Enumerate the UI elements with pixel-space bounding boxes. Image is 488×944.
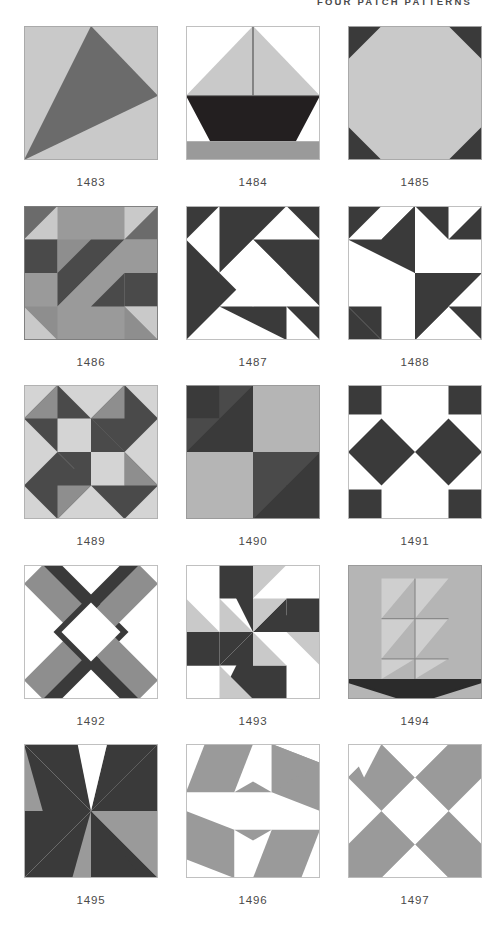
block-label-1497: 1497 — [400, 895, 429, 907]
quilt-block-art-1487 — [186, 206, 320, 340]
block-row-3: 148914901491 — [0, 385, 488, 548]
patch-shape — [449, 385, 483, 414]
block-art-1489 — [24, 385, 158, 519]
patch-shape — [24, 273, 58, 307]
block-label-1488: 1488 — [400, 357, 429, 369]
block-art-1490 — [186, 385, 320, 519]
block-art-1496 — [186, 744, 320, 878]
block-label-1492: 1492 — [76, 716, 105, 728]
block-row-4: 149214931494 — [0, 565, 488, 728]
block-label-1496: 1496 — [238, 895, 267, 907]
patch-shape — [186, 385, 220, 419]
block-grid: 1483148414851486148714881489149014911492… — [0, 26, 488, 907]
patch-shape — [186, 452, 253, 519]
quilt-block-1486[interactable]: 1486 — [18, 206, 164, 369]
block-label-1494: 1494 — [400, 716, 429, 728]
patch-shape — [91, 452, 125, 486]
patch-shape — [449, 490, 483, 519]
block-art-1491 — [348, 385, 482, 519]
patch-shape — [220, 565, 254, 599]
quilt-block-1483[interactable]: 1483 — [18, 26, 164, 189]
block-row-1: 148314841485 — [0, 26, 488, 189]
quilt-block-art-1495 — [24, 744, 158, 878]
quilt-block-1494[interactable]: 1494 — [342, 565, 488, 728]
quilt-block-art-1494 — [348, 565, 482, 699]
quilt-block-art-1496 — [186, 744, 320, 878]
block-art-1497 — [348, 744, 482, 878]
page-root: FOUR PATCH PATTERNS 14831484148514861487… — [0, 0, 488, 944]
quilt-block-art-1486 — [24, 206, 158, 340]
quilt-block-1491[interactable]: 1491 — [342, 385, 488, 548]
block-art-1487 — [186, 206, 320, 340]
patch-shape — [348, 490, 382, 519]
patch-shape — [186, 141, 320, 160]
quilt-block-art-1488 — [348, 206, 482, 340]
block-label-1487: 1487 — [238, 357, 267, 369]
patch-shape — [58, 419, 92, 453]
block-art-1493 — [186, 565, 320, 699]
block-label-1486: 1486 — [76, 357, 105, 369]
block-label-1484: 1484 — [238, 177, 267, 189]
patch-shape — [24, 239, 58, 273]
block-label-1493: 1493 — [238, 716, 267, 728]
block-art-1494 — [348, 565, 482, 699]
patch-shape — [253, 665, 287, 699]
block-label-1483: 1483 — [76, 177, 105, 189]
block-label-1489: 1489 — [76, 536, 105, 548]
quilt-block-art-1485 — [348, 26, 482, 160]
block-art-1485 — [348, 26, 482, 160]
quilt-block-art-1493 — [186, 565, 320, 699]
patch-shape — [287, 486, 321, 520]
quilt-block-1490[interactable]: 1490 — [180, 385, 326, 548]
quilt-block-1496[interactable]: 1496 — [180, 744, 326, 907]
patch-shape — [125, 239, 159, 273]
block-label-1485: 1485 — [400, 177, 429, 189]
running-head: FOUR PATCH PATTERNS — [317, 0, 472, 7]
patch-shape — [287, 598, 321, 632]
quilt-block-1488[interactable]: 1488 — [342, 206, 488, 369]
patch-shape — [253, 385, 320, 452]
quilt-block-1493[interactable]: 1493 — [180, 565, 326, 728]
block-art-1495 — [24, 744, 158, 878]
quilt-block-art-1483 — [24, 26, 158, 160]
block-label-1490: 1490 — [238, 536, 267, 548]
quilt-block-1497[interactable]: 1497 — [342, 744, 488, 907]
block-background — [348, 26, 482, 160]
quilt-block-1487[interactable]: 1487 — [180, 206, 326, 369]
quilt-block-art-1491 — [348, 385, 482, 519]
quilt-block-1485[interactable]: 1485 — [342, 26, 488, 189]
quilt-block-art-1489 — [24, 385, 158, 519]
quilt-block-1484[interactable]: 1484 — [180, 26, 326, 189]
quilt-block-art-1497 — [348, 744, 482, 878]
block-art-1484 — [186, 26, 320, 160]
block-label-1495: 1495 — [76, 895, 105, 907]
block-art-1492 — [24, 565, 158, 699]
block-label-1491: 1491 — [400, 536, 429, 548]
block-row-5: 149514961497 — [0, 744, 488, 907]
quilt-block-art-1484 — [186, 26, 320, 160]
block-art-1483 — [24, 26, 158, 160]
block-row-2: 148614871488 — [0, 206, 488, 369]
block-art-1486 — [24, 206, 158, 340]
block-art-1488 — [348, 206, 482, 340]
quilt-block-1492[interactable]: 1492 — [18, 565, 164, 728]
quilt-block-1489[interactable]: 1489 — [18, 385, 164, 548]
patch-shape — [125, 273, 159, 307]
quilt-block-1495[interactable]: 1495 — [18, 744, 164, 907]
quilt-block-art-1492 — [24, 565, 158, 699]
quilt-block-art-1490 — [186, 385, 320, 519]
patch-shape — [348, 385, 382, 414]
